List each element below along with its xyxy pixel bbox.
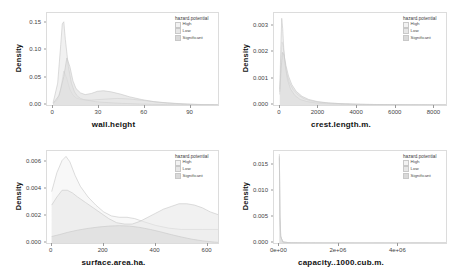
y-axis-ticks: 0.0000.0020.0040.006 — [0, 150, 46, 242]
x-axis-ticks: 0306090 — [46, 105, 217, 121]
legend-swatch-high — [175, 160, 181, 166]
y-axis-ticks: 0.0000.0010.0020.003 — [227, 12, 273, 104]
x-tick-mark — [51, 243, 52, 246]
x-tick-label: 6000 — [388, 109, 401, 115]
x-axis-ticks: 0e+002e+064e+06 — [273, 243, 445, 259]
legend-item-label: Significant — [411, 174, 431, 178]
y-tick-label: 0.001 — [253, 75, 268, 81]
panel-crest-length: Density0.0000.0010.0020.003hazard.potent… — [227, 0, 455, 138]
y-tick-label: 0.000 — [253, 101, 268, 107]
x-axis-ticks: 0200400600 — [46, 243, 217, 259]
y-tick-label: 0.005 — [253, 213, 268, 219]
legend-item-label: Significant — [411, 36, 431, 40]
legend-item-label: Low — [183, 29, 191, 33]
legend-swatch-high — [403, 22, 409, 28]
x-tick-mark — [395, 105, 396, 108]
x-tick-mark — [279, 105, 280, 108]
x-tick-label: 0 — [49, 247, 52, 253]
legend-item[interactable]: Significant — [403, 173, 437, 179]
x-tick-label: 4000 — [349, 109, 362, 115]
y-tick-label: 0.000 — [253, 239, 268, 245]
x-tick-mark — [144, 105, 145, 108]
x-tick-mark — [317, 105, 318, 108]
legend-item-label: High — [183, 160, 192, 164]
legend-item[interactable]: High — [175, 160, 209, 166]
panel-surface-area: Density0.0000.0020.0040.006hazard.potent… — [0, 138, 227, 276]
legend-item[interactable]: Low — [175, 28, 209, 34]
legend-item[interactable]: Low — [403, 166, 437, 172]
legend: hazard.potentialHighLowSignificant — [401, 15, 439, 42]
panel-capacity: Density0.0000.0050.0100.015hazard.potent… — [227, 138, 455, 276]
legend-item[interactable]: High — [175, 22, 209, 28]
x-tick-mark — [190, 105, 191, 108]
y-tick-label: 0.010 — [253, 187, 268, 193]
x-tick-label: 0 — [277, 109, 280, 115]
x-tick-mark — [207, 243, 208, 246]
x-tick-label: 0 — [50, 109, 53, 115]
x-tick-mark — [338, 243, 339, 246]
x-tick-label: 30 — [95, 109, 102, 115]
legend-swatch-low — [403, 166, 409, 172]
legend-item-label: Low — [411, 167, 419, 171]
x-tick-mark — [433, 105, 434, 108]
x-tick-label: 0e+00 — [270, 247, 287, 253]
legend-item-label: High — [411, 160, 420, 164]
y-tick-label: 0.003 — [253, 22, 268, 28]
x-axis-title: capacity..1000.cub.m. — [227, 258, 455, 267]
legend-swatch-significant — [403, 35, 409, 41]
legend-title: hazard.potential — [403, 154, 437, 159]
legend-item[interactable]: Low — [175, 166, 209, 172]
legend-swatch-significant — [175, 173, 181, 179]
y-tick-label: 0.002 — [26, 212, 41, 218]
legend-item-label: Significant — [183, 36, 203, 40]
legend-swatch-low — [175, 28, 181, 34]
y-tick-label: 0.004 — [26, 185, 41, 191]
x-axis-title: surface.area.ha. — [0, 258, 227, 267]
y-tick-label: 0.006 — [26, 158, 41, 164]
y-tick-label: 0.10 — [29, 46, 41, 52]
y-tick-label: 0.015 — [253, 161, 268, 167]
x-axis-title: crest.length.m. — [227, 120, 455, 129]
y-axis-ticks: 0.0000.0050.0100.015 — [227, 150, 273, 242]
x-tick-label: 2e+06 — [329, 247, 346, 253]
legend-title: hazard.potential — [175, 154, 209, 159]
legend-item-label: Low — [411, 29, 419, 33]
x-tick-label: 200 — [98, 247, 108, 253]
legend-item[interactable]: High — [403, 160, 437, 166]
x-tick-label: 60 — [140, 109, 147, 115]
legend-swatch-low — [175, 166, 181, 172]
legend: hazard.potentialHighLowSignificant — [173, 153, 211, 180]
legend-item[interactable]: Significant — [175, 35, 209, 41]
legend-title: hazard.potential — [175, 16, 209, 21]
panel-wall-height: Density0.000.050.100.15hazard.potentialH… — [0, 0, 227, 138]
legend-item[interactable]: Low — [403, 28, 437, 34]
legend: hazard.potentialHighLowSignificant — [173, 15, 211, 42]
x-axis-title: wall.height — [0, 120, 227, 129]
x-tick-mark — [103, 243, 104, 246]
x-tick-label: 2000 — [311, 109, 324, 115]
legend-item-label: High — [183, 22, 192, 26]
x-tick-label: 600 — [202, 247, 212, 253]
legend-title: hazard.potential — [403, 16, 437, 21]
y-tick-label: 0.000 — [26, 239, 41, 245]
legend-item-label: Low — [183, 167, 191, 171]
legend-item-label: High — [411, 22, 420, 26]
y-tick-label: 0.002 — [253, 48, 268, 54]
x-tick-mark — [397, 243, 398, 246]
legend-swatch-significant — [403, 173, 409, 179]
x-tick-label: 400 — [150, 247, 160, 253]
y-tick-label: 0.00 — [29, 101, 41, 107]
y-tick-label: 0.05 — [29, 74, 41, 80]
legend-item[interactable]: Significant — [403, 35, 437, 41]
facet-grid: Density0.000.050.100.15hazard.potentialH… — [0, 0, 455, 276]
legend-item[interactable]: High — [403, 22, 437, 28]
legend: hazard.potentialHighLowSignificant — [401, 153, 439, 180]
legend-swatch-low — [403, 28, 409, 34]
legend-item[interactable]: Significant — [175, 173, 209, 179]
x-tick-label: 90 — [186, 109, 193, 115]
x-tick-mark — [155, 243, 156, 246]
legend-item-label: Significant — [183, 174, 203, 178]
legend-swatch-high — [175, 22, 181, 28]
x-tick-mark — [356, 105, 357, 108]
x-tick-mark — [278, 243, 279, 246]
